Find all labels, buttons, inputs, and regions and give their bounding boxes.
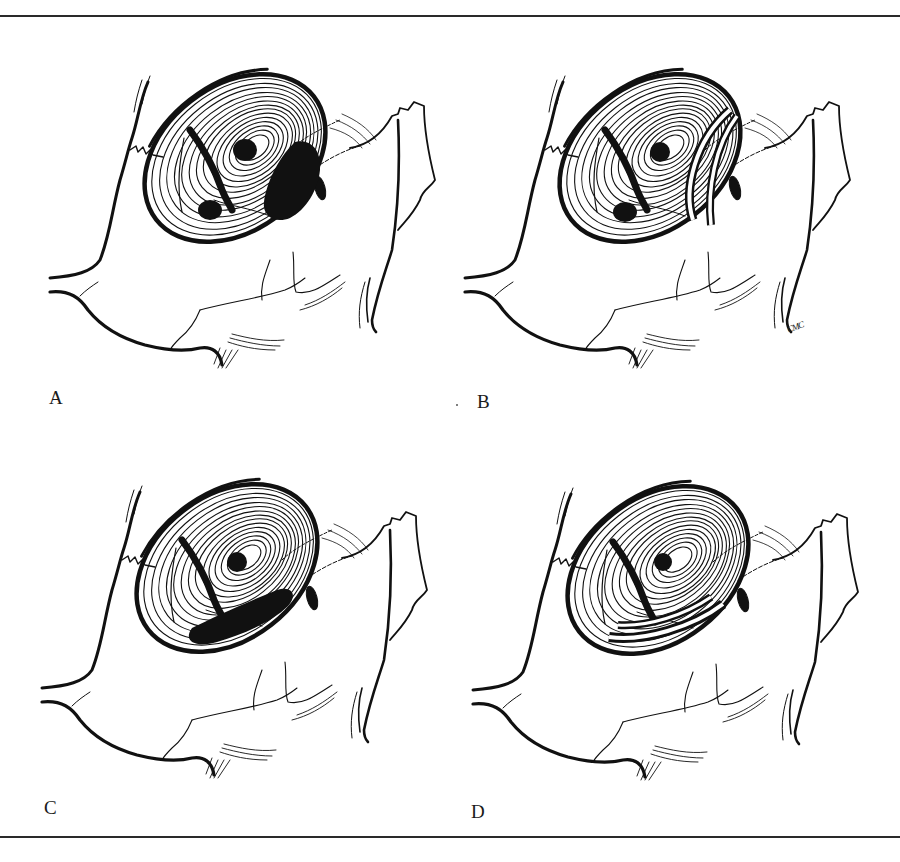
panel-label-d: D	[471, 802, 485, 821]
panel-label-b: B	[477, 392, 490, 411]
panel-a: A	[0, 20, 450, 430]
ear-illustration-b	[415, 20, 865, 430]
panel-d: D	[423, 432, 873, 842]
ear-illustration-d	[423, 432, 873, 842]
panel-b: B	[415, 20, 865, 430]
ear-illustration-a	[0, 20, 450, 430]
ear-illustration-c	[0, 430, 442, 840]
panel-label-a: A	[49, 388, 63, 407]
stray-mark	[456, 404, 458, 406]
top-rule	[0, 15, 900, 17]
panel-label-c: C	[44, 798, 57, 817]
panel-c: C	[0, 430, 442, 840]
